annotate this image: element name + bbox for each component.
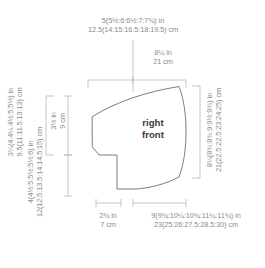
bottom-left-dimension-bracket — [96, 199, 121, 207]
top-right-segment-label: 8¼ in 21 cm — [137, 48, 189, 66]
schematic-diagram: 5(5½:6:6½:7:7¾) in 12.5(14:15:16.5:18:19… — [0, 0, 265, 268]
bottom-left-segment-cm: 7 cm — [83, 220, 133, 229]
left-lower-cm: 12(12.5:13.5:14:14.5:15) cm — [35, 112, 44, 232]
left-upper-outer-cm: 9.5(11:11.5:13:13) cm — [15, 62, 24, 182]
left-upper-inner-inches: 3½ in — [49, 94, 58, 148]
piece-name-label: right front — [118, 117, 188, 140]
right-side-dimension-bracket — [192, 86, 200, 178]
top-width-cm: 12.5(14:15:16.5:18:19.5) cm — [43, 25, 223, 34]
left-upper-inner-label: 3½ in 9 cm — [49, 94, 67, 148]
top-dimension-bracket — [88, 76, 186, 88]
left-lower-inches: 4(4½:5:5½:5½:6) in — [26, 112, 35, 232]
piece-name-line-2: front — [118, 129, 188, 141]
top-width-label: 5(5½:6:6½:7:7¾) in 12.5(14:15:16.5:18:19… — [43, 16, 223, 34]
left-lower-label: 4(4½:5:5½:5½:6) in 12(12.5:13.5:14:14.5:… — [26, 112, 44, 232]
right-side-cm: 21(22.5:22.5:23:24:25) cm — [214, 70, 223, 190]
piece-name-line-1: right — [118, 117, 188, 129]
right-side-inches: 8¼(8¾:8¾:9:9½:9¾) in — [205, 70, 214, 190]
top-right-segment-cm: 21 cm — [137, 57, 189, 66]
left-upper-outer-inches: 3¼(4:4¼:4½:5:5½) in — [6, 62, 15, 182]
left-lower-dimension-bracket — [64, 155, 72, 196]
bottom-width-dimension-bracket — [133, 199, 186, 207]
top-width-inches: 5(5½:6:6½:7:7¾) in — [43, 16, 223, 25]
bottom-width-inches: 9(9¾:10¼:10¾:11¼:11¾) in — [130, 211, 262, 220]
bottom-left-segment-label: 2¾ in 7 cm — [83, 211, 133, 229]
bottom-width-cm: 23(25:26:27.5:28.5:30) cm — [130, 220, 262, 229]
left-upper-inner-cm: 9 cm — [58, 94, 67, 148]
top-right-segment-inches: 8¼ in — [137, 48, 189, 57]
left-upper-outer-label: 3¼(4:4¼:4½:5:5½) in 9.5(11:11.5:13:13) c… — [6, 62, 24, 182]
right-side-label: 8¼(8¾:8¾:9:9½:9¾) in 21(22.5:22.5:23:24:… — [205, 70, 223, 190]
bottom-width-label: 9(9¾:10¼:10¾:11¼:11¾) in 23(25:26:27.5:2… — [130, 211, 262, 229]
bottom-left-segment-inches: 2¾ in — [83, 211, 133, 220]
